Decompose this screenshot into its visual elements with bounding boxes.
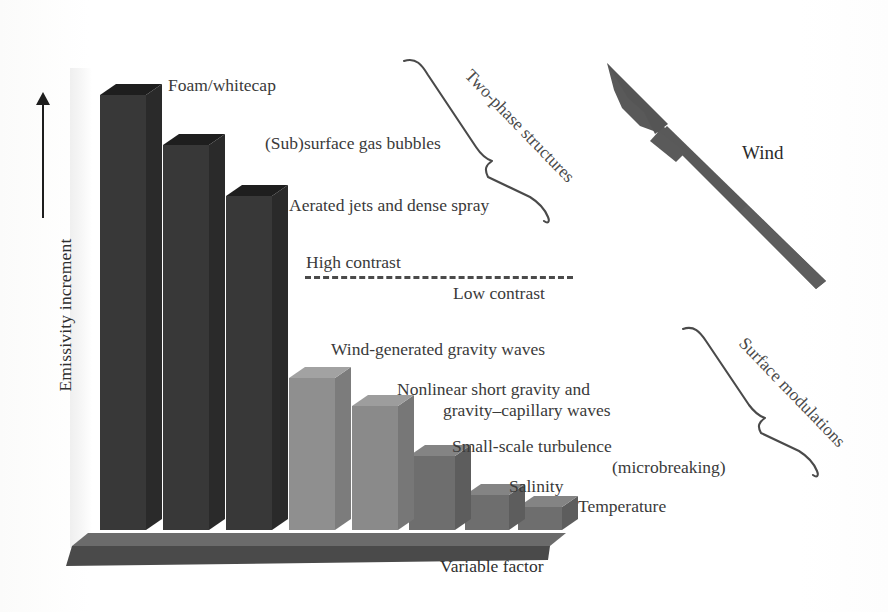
wind-arrow-icon: [0, 0, 888, 612]
figure-canvas: Emissivity increment Variable factor Foa…: [0, 0, 888, 612]
wind-label: Wind: [742, 142, 783, 164]
